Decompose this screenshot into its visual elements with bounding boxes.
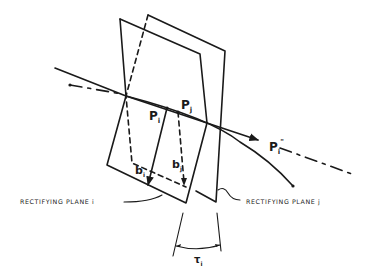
label-b-j: bj — [172, 158, 182, 173]
label-p-i: Pi — [149, 109, 160, 125]
leader-plane-i — [124, 195, 162, 202]
torsion-angle — [173, 213, 221, 256]
label-b-i: bi — [135, 164, 145, 178]
binormal-b-j — [176, 110, 187, 186]
label-p-j: Pj — [181, 98, 192, 114]
caption-rectifying-plane-i: RECTIFYING PLANE i — [20, 198, 94, 205]
label-tau-i: τi — [194, 254, 202, 267]
rectifying-planes-diagram: Pi Pj Pi" bi bj τi RECTIFYING PLANE i RE… — [0, 0, 371, 279]
leader-plane-j — [218, 189, 240, 200]
caption-rectifying-plane-j: RECTIFYING PLANE j — [246, 198, 320, 206]
label-p-i-double-prime: Pi" — [269, 138, 284, 156]
